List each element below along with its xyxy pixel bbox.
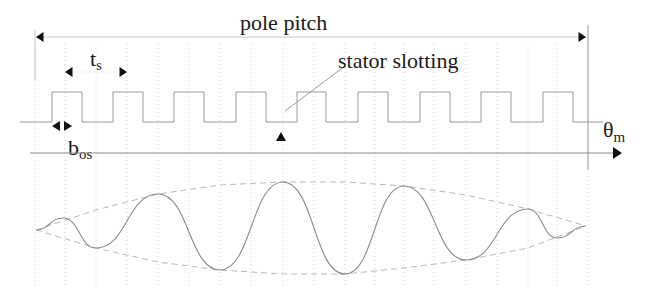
arrow-right-icon <box>64 121 72 131</box>
pole-pitch-label: pole pitch <box>240 10 327 35</box>
slot-pitch-dimension: ts <box>65 46 127 77</box>
arrow-right-icon <box>120 67 128 77</box>
slotting-square-wave <box>20 92 603 122</box>
arrow-left-icon <box>36 32 44 42</box>
vertical-grid-lines <box>35 44 588 285</box>
slot-pitch-label: ts <box>90 46 102 73</box>
axis-symbol: θ <box>603 117 614 142</box>
slot-opening-label: bos <box>68 135 93 162</box>
arrow-left-icon <box>65 67 73 77</box>
slot-pitch-subscript: s <box>96 58 101 73</box>
flux-density-waveform <box>36 182 586 274</box>
theta-m-axis: θm <box>30 117 626 159</box>
pole-pitch-slotting-diagram: pole pitch ts stator slotting bos θm <box>0 0 652 298</box>
axis-label: θm <box>603 117 626 145</box>
upper-envelope-dashed <box>36 182 586 230</box>
slot-opening-subscript: os <box>79 146 93 162</box>
axis-subscript: m <box>614 129 626 145</box>
slot-opening-dimension: bos <box>52 121 93 162</box>
stator-slotting-label: stator slotting <box>338 48 458 73</box>
stator-slotting-profile: stator slotting <box>20 48 603 141</box>
arrow-left-icon <box>52 121 60 131</box>
stator-slotting-leader-line <box>285 66 345 111</box>
diagram-svg: pole pitch ts stator slotting bos θm <box>0 0 652 298</box>
triangle-up-marker-icon <box>276 132 286 141</box>
slot-opening-symbol: b <box>68 135 79 160</box>
arrow-right-icon <box>613 147 622 159</box>
arrow-right-icon <box>579 32 587 42</box>
pole-pitch-dimension: pole pitch <box>35 10 588 170</box>
modulated-waveform-group <box>36 182 586 274</box>
lower-envelope-dashed <box>36 226 586 274</box>
